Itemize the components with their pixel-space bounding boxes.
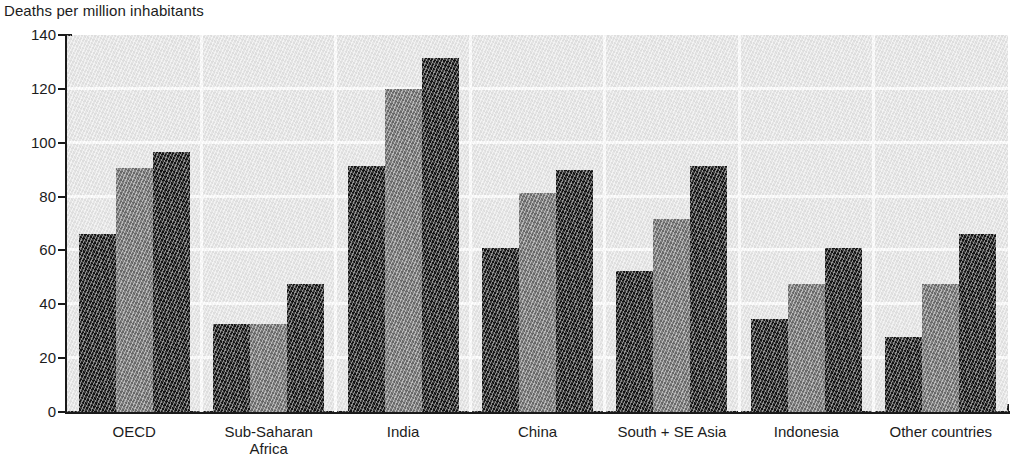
y-tick-mark-80 (58, 196, 67, 198)
y-tick-label-60: 60 (4, 242, 56, 257)
bar (79, 234, 116, 412)
group-separator-3 (469, 35, 472, 412)
bar (287, 284, 324, 412)
y-tick-label-120: 120 (4, 81, 56, 96)
bar (885, 337, 922, 412)
group-separator-6 (872, 35, 875, 412)
category-label: China (470, 423, 604, 440)
category-label: OECD (67, 423, 201, 440)
bar (385, 89, 422, 412)
bar (959, 234, 996, 412)
category-label: Sub-Saharan Africa (201, 423, 335, 457)
bar (556, 170, 593, 412)
y-tick-mark-100 (58, 142, 67, 144)
bar (422, 58, 459, 412)
bar (519, 193, 556, 412)
bar (788, 284, 825, 412)
bar (922, 284, 959, 412)
y-tick-label-100: 100 (4, 135, 56, 150)
bar (751, 319, 788, 412)
bar (825, 248, 862, 412)
gridline-100 (67, 141, 1008, 144)
bar (690, 166, 727, 412)
bar (348, 166, 385, 412)
group-separator-1 (200, 35, 203, 412)
group-separator-2 (334, 35, 337, 412)
bar (250, 324, 287, 412)
bar (116, 168, 153, 412)
y-tick-label-20: 20 (4, 350, 56, 365)
plot-area (67, 35, 1008, 412)
bar-chart: Deaths per million inhabitants 020406080… (0, 0, 1021, 470)
category-label: India (336, 423, 470, 440)
y-tick-label-40: 40 (4, 296, 56, 311)
bar (616, 271, 653, 412)
y-tick-mark-0 (58, 411, 67, 413)
group-separator-5 (738, 35, 741, 412)
x-axis-right-cap (1007, 404, 1009, 414)
bar (153, 152, 190, 412)
bar (213, 324, 250, 412)
y-tick-mark-120 (58, 88, 67, 90)
bar (482, 248, 519, 412)
y-tick-mark-60 (58, 249, 67, 251)
gridline-120 (67, 87, 1008, 90)
group-separator-4 (603, 35, 606, 412)
y-axis-ticks: 020406080100120140 (0, 0, 56, 470)
y-tick-mark-140 (58, 34, 67, 36)
bar (653, 219, 690, 412)
category-label: Indonesia (739, 423, 873, 440)
y-tick-label-80: 80 (4, 189, 56, 204)
y-tick-mark-40 (58, 303, 67, 305)
y-tick-label-140: 140 (4, 27, 56, 42)
category-label: South + SE Asia (605, 423, 739, 440)
y-tick-label-0: 0 (4, 404, 56, 419)
category-label: Other countries (874, 423, 1008, 440)
y-tick-mark-20 (58, 357, 67, 359)
